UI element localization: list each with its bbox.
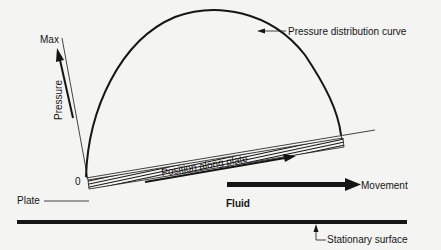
plate-label: Plate — [17, 195, 40, 206]
movement-label: Movement — [361, 180, 408, 191]
stationary-leader — [314, 224, 327, 240]
pressure-axis — [62, 38, 88, 180]
stationary-surface — [17, 220, 407, 224]
max-label: Max — [40, 34, 59, 45]
curve-label: Pressure distribution curve — [288, 26, 407, 37]
position-label: Position along plate — [161, 153, 249, 178]
position-baseline — [86, 130, 375, 178]
fluid-label: Fluid — [226, 198, 250, 209]
pressure-distribution-diagram: Max Pressure 0 Pressure distribution cur… — [0, 0, 441, 250]
origin-label: 0 — [75, 176, 81, 187]
pressure-label: Pressure — [53, 80, 64, 120]
stationary-label: Stationary surface — [327, 234, 408, 245]
movement-arrow — [227, 178, 361, 191]
